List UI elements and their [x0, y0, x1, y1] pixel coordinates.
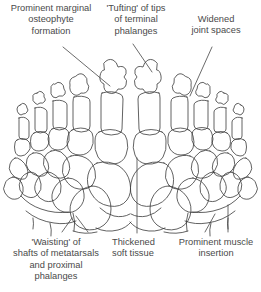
leader-lines	[62, 44, 228, 233]
label-prominent-muscle-insertion: Prominent muscle insertion	[172, 237, 260, 260]
label-widened-joint-spaces: Widened joint spaces	[174, 14, 258, 37]
right-foot-bones	[130, 59, 258, 236]
left-foot-bones	[4, 59, 132, 236]
label-tufting-of-tips-of-terminal-phalanges: 'Tufting' of tips of terminal phalanges	[100, 3, 172, 37]
foot-radiograph-figure: Prominent marginal osteophyte formation …	[0, 0, 261, 292]
label-waisting-of-shafts-of-metatarsals-and-proximal-phalanges: 'Waisting' of shafts of metatarsals and …	[1, 237, 111, 282]
label-thickened-soft-tissue: Thickened soft tissue	[112, 237, 174, 260]
label-prominent-marginal-osteophyte-formation: Prominent marginal osteophyte formation	[2, 3, 100, 37]
